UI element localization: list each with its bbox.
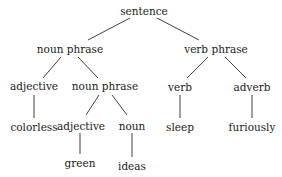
node-sentence: sentence: [120, 6, 168, 17]
leaf-sleep: sleep: [166, 122, 194, 133]
node-noun: noun: [119, 121, 146, 132]
node-adjective-nested: adjective: [57, 121, 105, 132]
edge-np2-to-adj2: [86, 95, 99, 115]
edge-sentence-to-vp: [157, 18, 199, 40]
edge-sentence-to-np1: [88, 18, 130, 40]
edge-np2-to-noun: [112, 95, 127, 115]
node-noun-phrase-nested: noun phrase: [72, 81, 138, 92]
node-noun-phrase: noun phrase: [37, 44, 103, 55]
leaf-ideas: ideas: [118, 161, 146, 172]
node-verb: verb: [168, 82, 192, 93]
node-adverb: adverb: [234, 82, 271, 93]
leaf-furiously: furiously: [229, 122, 276, 133]
node-adjective: adjective: [10, 81, 58, 92]
edge-vp-to-adverb: [225, 57, 246, 78]
edge-vp-to-verb: [187, 57, 208, 78]
leaf-colorless: colorless: [10, 122, 57, 133]
parse-tree-diagram: sentence noun phrase verb phrase adjecti…: [0, 0, 282, 177]
node-verb-phrase: verb phrase: [184, 44, 248, 55]
edge-np1-to-adj1: [43, 57, 61, 78]
edge-np1-to-np2: [78, 57, 98, 78]
leaf-green: green: [65, 158, 96, 169]
